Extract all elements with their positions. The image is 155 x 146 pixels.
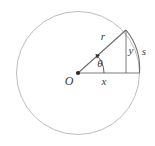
label-radius: r [101, 30, 106, 42]
label-adjacent: x [101, 75, 107, 87]
label-arc: s [142, 45, 146, 57]
label-opposite: y [128, 44, 134, 56]
origin-vertex-dot [76, 71, 80, 75]
diagram-canvas: r y s x O θ [0, 0, 155, 146]
label-origin: O [65, 74, 74, 88]
circle-sector-diagram: r y s x O θ [0, 0, 155, 146]
label-angle: θ [97, 57, 103, 69]
